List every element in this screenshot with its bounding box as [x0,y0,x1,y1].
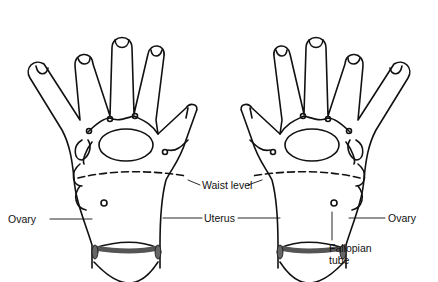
label-fallopian-tube-1: Fallopian [329,242,372,254]
leader-waist [188,180,200,185]
label-ovary-right: Ovary [388,212,416,224]
right-hand [241,38,410,282]
label-uterus: Uterus [204,212,235,224]
label-fallopian-tube-2: tube [329,254,349,266]
left-hand [28,38,197,282]
label-ovary-left: Ovary [8,213,36,225]
label-waist-level: Waist level [202,179,252,191]
hands-diagram [0,0,438,282]
